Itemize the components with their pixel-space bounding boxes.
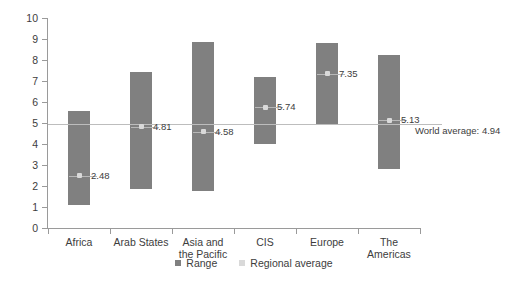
regional-average-value-label: 2.48 bbox=[91, 171, 110, 181]
legend-item-regional-average: Regional average bbox=[239, 258, 332, 269]
legend-swatch-regional-average-icon bbox=[239, 260, 245, 266]
y-axis-tick-label: 3 bbox=[20, 160, 38, 171]
x-axis-category-label: CIS bbox=[234, 236, 296, 248]
y-axis-tick-label: 0 bbox=[20, 223, 38, 234]
y-axis-tick bbox=[42, 165, 47, 166]
y-axis-tick-label: 4 bbox=[20, 139, 38, 150]
y-axis-tick bbox=[42, 144, 47, 145]
y-axis-tick-label: 2 bbox=[20, 181, 38, 192]
x-axis-category-label: The Americas bbox=[358, 236, 420, 260]
y-axis-tick bbox=[42, 81, 47, 82]
x-axis-tick bbox=[172, 229, 173, 234]
y-axis-tick-label: 1 bbox=[20, 202, 38, 213]
regional-average-value-label: 7.35 bbox=[339, 69, 358, 79]
range-bar bbox=[192, 42, 214, 191]
y-axis-tick-label: 8 bbox=[20, 55, 38, 66]
y-axis-tick bbox=[42, 60, 47, 61]
y-axis-tick bbox=[42, 39, 47, 40]
regional-average-value-label: 5.74 bbox=[277, 102, 296, 112]
y-axis-tick-label: 9 bbox=[20, 34, 38, 45]
regional-average-marker bbox=[201, 129, 206, 134]
x-axis-category-label: Europe bbox=[296, 236, 358, 248]
regional-average-value-label: 4.58 bbox=[215, 127, 234, 137]
x-axis-tick bbox=[358, 229, 359, 234]
range-bar bbox=[68, 111, 90, 204]
legend-label-regional-average: Regional average bbox=[250, 258, 332, 269]
legend-item-range: Range bbox=[175, 258, 217, 269]
y-axis-tick bbox=[42, 186, 47, 187]
y-axis-tick-label: 7 bbox=[20, 76, 38, 87]
x-axis-tick bbox=[234, 229, 235, 234]
regional-average-value-label: 5.13 bbox=[401, 115, 420, 125]
regional-average-marker bbox=[263, 105, 268, 110]
regional-average-marker bbox=[325, 71, 330, 76]
y-axis-tick-label: 6 bbox=[20, 97, 38, 108]
x-axis-tick bbox=[48, 229, 49, 234]
idi-range-chart: IDI 2016 012345678910 AfricaArab StatesA… bbox=[0, 0, 508, 281]
x-axis-category-label: Arab States bbox=[110, 236, 172, 248]
range-bar bbox=[316, 43, 338, 124]
y-axis-tick bbox=[42, 102, 47, 103]
legend-label-range: Range bbox=[186, 258, 217, 269]
regional-average-marker bbox=[77, 173, 82, 178]
regional-average-marker bbox=[139, 124, 144, 129]
y-axis-tick-label: 10 bbox=[20, 13, 38, 24]
world-average-label: World average: 4.94 bbox=[415, 126, 500, 136]
range-bar bbox=[130, 72, 152, 190]
legend-swatch-range-icon bbox=[175, 260, 181, 266]
x-axis-tick bbox=[110, 229, 111, 234]
y-axis-tick bbox=[42, 123, 47, 124]
y-axis-tick bbox=[42, 207, 47, 208]
range-bar bbox=[378, 55, 400, 169]
world-average-line bbox=[48, 124, 442, 125]
x-axis-tick bbox=[420, 229, 421, 234]
regional-average-value-label: 4.81 bbox=[153, 122, 172, 132]
regional-average-marker bbox=[387, 118, 392, 123]
range-bar bbox=[254, 77, 276, 144]
x-axis-category-label: Africa bbox=[48, 236, 110, 248]
y-axis-tick bbox=[42, 18, 47, 19]
chart-legend: Range Regional average bbox=[0, 258, 508, 269]
x-axis-tick bbox=[296, 229, 297, 234]
y-axis-tick-label: 5 bbox=[20, 118, 38, 129]
